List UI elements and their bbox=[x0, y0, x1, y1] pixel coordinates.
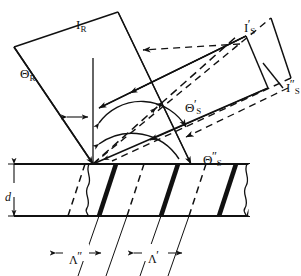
label-angle-incident: ΘR bbox=[20, 65, 36, 83]
label-diffracted-beam-2-subscript: S bbox=[295, 86, 300, 96]
label-period-1-prime: ′ bbox=[156, 248, 158, 262]
label-diffracted-beam-1-subscript: S bbox=[250, 26, 255, 36]
label-incident-beam: IR bbox=[76, 16, 87, 34]
label-angle-diffracted-1-symbol: Θ bbox=[185, 100, 194, 115]
period-extension-lines bbox=[78, 216, 189, 276]
label-period-2: Λ″ bbox=[69, 250, 82, 267]
figure-drawing bbox=[0, 0, 301, 276]
label-angle-diffracted-1: Θ′S bbox=[185, 98, 201, 116]
label-angle-diffracted-2: Θ″S bbox=[203, 150, 222, 168]
label-incident-beam-subscript: R bbox=[81, 24, 87, 34]
label-diffracted-beam-2-prime: ″ bbox=[290, 77, 295, 91]
diffracted-beam-IS-prime-rays bbox=[130, 36, 268, 140]
angle-arc-theta-S-double-prime bbox=[99, 133, 179, 159]
label-angle-diffracted-2-prime: ″ bbox=[212, 149, 217, 163]
label-angle-diffracted-2-subscript: S bbox=[217, 158, 222, 168]
label-diffracted-beam-1: I′S bbox=[244, 18, 255, 36]
grating-slab bbox=[14, 164, 250, 216]
bragg-diffraction-figure: IR I′S I″S ΘR Θ′S Θ″S d Λ″ Λ′ bbox=[0, 0, 301, 276]
grating-fringes bbox=[68, 164, 292, 216]
slab-broken-edge-right bbox=[244, 164, 250, 216]
label-angle-incident-symbol: Θ bbox=[20, 66, 29, 81]
label-period-1: Λ′ bbox=[148, 249, 158, 266]
diffracted-beam-double-prime-rays bbox=[143, 44, 288, 137]
label-angle-diffracted-1-subscript: S bbox=[196, 106, 201, 116]
label-diffracted-beam-2: I″S bbox=[286, 78, 300, 96]
slab-broken-edge-left bbox=[86, 164, 90, 216]
label-incident-beam-symbol: I bbox=[76, 17, 80, 32]
label-period-2-prime: ″ bbox=[77, 249, 82, 263]
label-angle-diffracted-2-symbol: Θ bbox=[203, 152, 212, 167]
label-thickness: d bbox=[5, 188, 11, 204]
label-thickness-symbol: d bbox=[5, 190, 11, 204]
label-angle-incident-subscript: R bbox=[30, 73, 36, 83]
